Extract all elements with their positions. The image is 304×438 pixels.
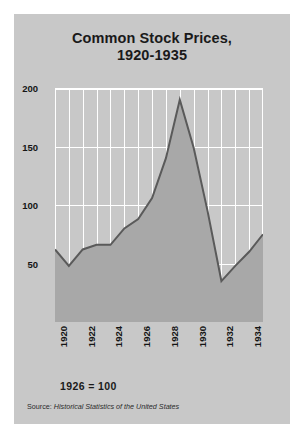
chart-title-line-1: Common Stock Prices, — [14, 30, 290, 47]
base-year-note: 1926 = 100 — [60, 380, 117, 392]
plot-area — [55, 88, 263, 322]
x-axis-tick-label: 1920 — [59, 326, 68, 347]
x-axis-tick-label: 1930 — [198, 326, 207, 347]
chart-figure: Common Stock Prices, 1920-1935 1926 = 10… — [14, 14, 290, 424]
x-axis-tick-label: 1922 — [87, 326, 96, 347]
x-axis-tick-label: 1924 — [114, 326, 123, 347]
y-axis-tick-label: 50 — [0, 260, 38, 269]
source-prefix: Source: — [27, 402, 52, 411]
y-axis-tick-label: 100 — [0, 201, 38, 210]
source-note: Source: Historical Statistics of the Uni… — [27, 402, 179, 411]
stock-price-area-series — [55, 88, 263, 322]
x-axis-tick-label: 1928 — [170, 326, 179, 347]
y-axis-tick-label: 150 — [0, 143, 38, 152]
x-axis-tick-label: 1932 — [225, 326, 234, 347]
chart-title-line-2: 1920-1935 — [14, 47, 290, 64]
chart-title: Common Stock Prices, 1920-1935 — [14, 30, 290, 64]
x-axis-tick-label: 1934 — [253, 326, 262, 347]
x-axis-tick-label: 1926 — [142, 326, 151, 347]
series-area-fill — [55, 100, 263, 322]
source-title: Historical Statistics of the United Stat… — [52, 402, 179, 411]
y-axis-tick-label: 200 — [0, 84, 38, 93]
